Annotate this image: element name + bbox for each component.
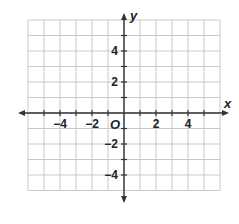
y-tick-label: −4 [104,168,118,182]
x-tick-label: 4 [185,117,192,131]
y-tick-label: 4 [111,44,118,58]
x-tick-label: −2 [85,117,99,131]
y-axis-label: y [129,8,138,23]
coordinate-plane: −4−22442−2−4 x y O [0,0,239,224]
y-tick-label: 2 [111,75,118,89]
x-tick-label: 2 [153,117,160,131]
x-axis-label: x [223,96,232,111]
origin-label: O [110,117,120,132]
y-tick-label: −2 [104,137,118,151]
x-tick-label: −4 [53,117,67,131]
x-axis-left-arrow-icon [18,110,25,116]
y-axis-up-arrow-icon [121,13,127,20]
y-axis-down-arrow-icon [121,196,127,203]
